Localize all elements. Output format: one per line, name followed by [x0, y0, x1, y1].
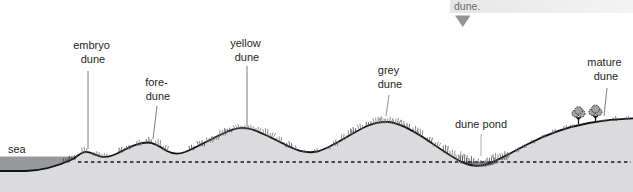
label-yellow-dune: yellow dune: [230, 37, 264, 63]
dune-succession-diagram: dune. sea embryo dune: [0, 0, 633, 192]
tree-icon: [572, 107, 585, 124]
grass-tuft: [82, 147, 87, 153]
label-dune-pond: dune pond: [455, 118, 507, 130]
label-mature-dune: mature dune: [587, 56, 624, 82]
label-grey-dune: grey dune: [378, 64, 402, 90]
leader-mature-dune: [604, 88, 607, 116]
grass-tuft: [263, 128, 268, 134]
callout-pointer-icon: [455, 16, 471, 28]
callout-text: dune.: [454, 0, 480, 12]
label-embryo-dune: embryo dune: [73, 39, 113, 65]
tree-icon: [589, 105, 602, 122]
grass-tuft: [399, 120, 404, 125]
label-sea: sea: [8, 143, 27, 155]
grass-tuft: [156, 139, 161, 146]
label-fore-dune: fore- dune: [145, 76, 171, 102]
grass-tuft: [277, 137, 282, 142]
leader-fore-dune: [153, 106, 157, 139]
leader-grey-dune: [386, 95, 389, 116]
grass-tuft: [443, 145, 448, 152]
grass-tuft: [405, 123, 410, 127]
grass-tuft: [413, 126, 418, 132]
